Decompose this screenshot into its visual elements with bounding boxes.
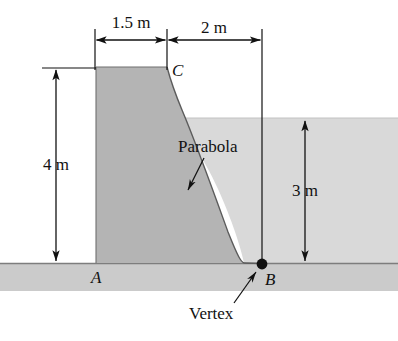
dimension-label-3m: 3 m [292,181,318,200]
dimension-label-1-5m: 1.5 m [112,13,151,32]
point-label-b: B [265,270,276,289]
figure-canvas: 1.5 m 2 m 4 m 3 m C A B Parabola V [0,0,398,341]
dimension-label-4m: 4 m [43,155,69,174]
diagram-svg: 1.5 m 2 m 4 m 3 m C A B Parabola V [0,0,398,341]
point-marker-b [257,259,268,270]
point-label-c: C [172,61,184,80]
left-dimension-group: 4 m [42,68,96,261]
dimension-label-2m: 2 m [201,18,227,37]
ground-band [0,263,398,291]
vertex-label: Vertex [189,304,234,323]
parabola-label: Parabola [178,137,238,156]
point-label-a: A [90,268,102,287]
